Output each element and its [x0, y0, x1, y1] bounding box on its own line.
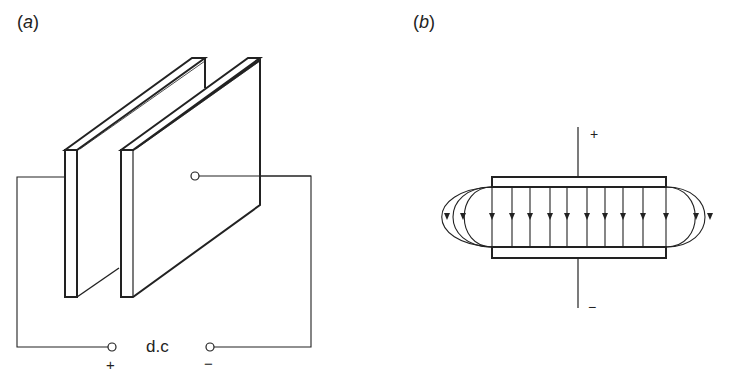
panel-a-label: (a)	[17, 12, 39, 32]
positive-terminal	[108, 343, 116, 351]
bottom-plate-minus: −	[588, 299, 596, 315]
dc-supply-label: d.c	[146, 337, 169, 356]
field-arrowheads	[444, 213, 713, 220]
panel-b: (b) + −	[413, 12, 713, 315]
negative-sign: −	[204, 355, 213, 372]
top-plate	[492, 177, 666, 187]
plate-terminal	[191, 172, 199, 180]
positive-sign: +	[106, 356, 115, 373]
panel-b-label: (b)	[413, 12, 435, 32]
top-plate-plus: +	[590, 126, 598, 142]
negative-terminal	[206, 343, 214, 351]
bottom-plate	[492, 247, 666, 258]
panel-a: (a)	[17, 12, 311, 373]
capacitor-diagram: (a)	[0, 0, 731, 383]
